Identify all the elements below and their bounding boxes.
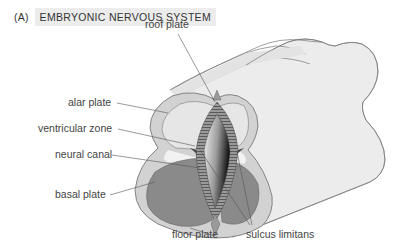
label-alar-plate: alar plate (68, 96, 111, 108)
label-neural-canal: neural canal (55, 148, 112, 160)
label-ventricular-zone: ventricular zone (38, 122, 112, 134)
label-sulcus-limitans: sulcus limitans (246, 228, 314, 240)
label-basal-plate: basal plate (55, 188, 106, 200)
label-floor-plate: floor plate (172, 228, 218, 240)
cross-section (135, 90, 272, 238)
label-roof-plate: roof plate (145, 18, 189, 30)
